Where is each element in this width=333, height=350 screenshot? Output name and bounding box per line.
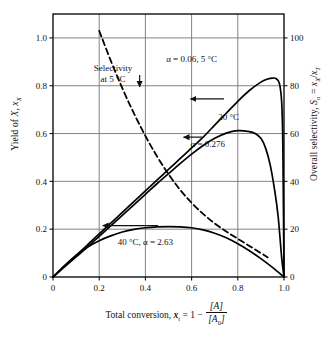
x-axis-title: Total conversion, xt = 1 − [A][A0]	[0, 302, 333, 330]
y-axis-right-tick-label: 80	[290, 81, 300, 91]
y-axis-left-tick-label: 0.4	[36, 177, 48, 187]
x-axis-title-prefix: Total conversion,	[105, 310, 173, 320]
forty-c-alpha-263-label: 40 °C, α = 2.63	[118, 237, 174, 247]
y-axis-right-title-eq: =	[309, 86, 319, 96]
y-axis-left-tick-label: 0.2	[36, 224, 47, 234]
alpha-0276-label: α = 0.276	[190, 139, 225, 149]
y-axis-right-tick-label: 60	[290, 129, 300, 139]
x-axis-tick-label: 0.6	[186, 283, 198, 293]
series-curve	[53, 131, 284, 277]
y-axis-right-title: Overall selectivity, So = xX/xT	[309, 59, 321, 189]
y-axis-left-tick-label: 0.8	[36, 81, 48, 91]
y-axis-left-title-sym: x	[10, 101, 20, 105]
y-axis-right-title-slash: /	[309, 75, 319, 78]
x-axis-title-eq: = 1 −	[180, 310, 205, 320]
x-axis-tick-label: 0.2	[94, 283, 105, 293]
x-axis-title-denominator: [A0]	[206, 313, 226, 329]
x-axis-tick-label: 1.0	[278, 283, 290, 293]
y-axis-left-tick-label: 0.6	[36, 129, 48, 139]
series-curve	[53, 227, 284, 277]
plot-area: 00.20.40.60.81.000.20.40.60.81.002040608…	[0, 0, 333, 350]
twenty-c-label: 20 °C	[218, 112, 239, 122]
alpha-006-5c-label: α = 0.06, 5 °C	[166, 54, 217, 64]
y-axis-right-tick-label: 20	[290, 224, 300, 234]
x-axis-title-numerator: [A]	[206, 301, 226, 313]
y-axis-right-tick-label: 100	[290, 33, 304, 43]
chart-figure: 00.20.40.60.81.000.20.40.60.81.002040608…	[0, 0, 333, 350]
y-axis-right-tick-label: 40	[290, 177, 300, 187]
y-axis-left-title: Yield of X, xX	[10, 64, 22, 184]
y-axis-right-title-prefix: Overall selectivity,	[309, 105, 319, 181]
y-axis-left-tick-label: 0	[43, 272, 48, 282]
x-axis-tick-label: 0.8	[232, 283, 244, 293]
y-axis-left-title-prefix: Yield of	[10, 117, 20, 151]
y-axis-right-title-num: x	[309, 82, 319, 86]
x-axis-title-fraction: [A][A0]	[206, 301, 226, 329]
y-axis-left-tick-label: 1.0	[36, 33, 48, 43]
selectivity-at-5c-label-line2: at 5 °C	[101, 74, 126, 84]
x-axis-tick-label: 0.4	[140, 283, 152, 293]
y-axis-left-title-var: X	[10, 111, 20, 117]
y-axis-right-title-ssub: o	[314, 97, 321, 100]
y-axis-right-tick-label: 0	[290, 272, 295, 282]
x-axis-tick-label: 0	[51, 283, 56, 293]
y-axis-right-title-den: x	[309, 71, 319, 75]
y-axis-left-title-sub: X	[15, 97, 22, 101]
y-axis-right-title-densub: T	[314, 67, 321, 71]
y-axis-right-title-s: S	[309, 100, 319, 105]
y-axis-right-title-numsub: X	[314, 78, 321, 82]
selectivity-at-5c-label: Selectivity	[94, 63, 133, 73]
